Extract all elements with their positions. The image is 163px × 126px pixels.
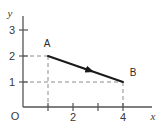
x-tick-label-2: 2 bbox=[70, 111, 76, 123]
y-tick-label-1: 1 bbox=[9, 76, 15, 88]
origin-label: O bbox=[11, 110, 20, 122]
axes bbox=[23, 16, 152, 107]
x-tick-label-4: 4 bbox=[120, 111, 126, 123]
vector-ab bbox=[48, 56, 123, 82]
point-label-a: A bbox=[44, 38, 51, 49]
direction-arrow-icon bbox=[78, 66, 90, 70]
y-tick-label-3: 3 bbox=[9, 24, 15, 36]
point-label-b: B bbox=[130, 67, 137, 78]
graph-svg: y x O 3 2 1 2 4 A B bbox=[0, 0, 163, 126]
y-tick-label-2: 2 bbox=[9, 50, 15, 62]
coordinate-plane-figure: y x O 3 2 1 2 4 A B bbox=[0, 0, 163, 126]
x-axis-label: x bbox=[150, 110, 156, 122]
y-axis-label: y bbox=[7, 7, 13, 19]
